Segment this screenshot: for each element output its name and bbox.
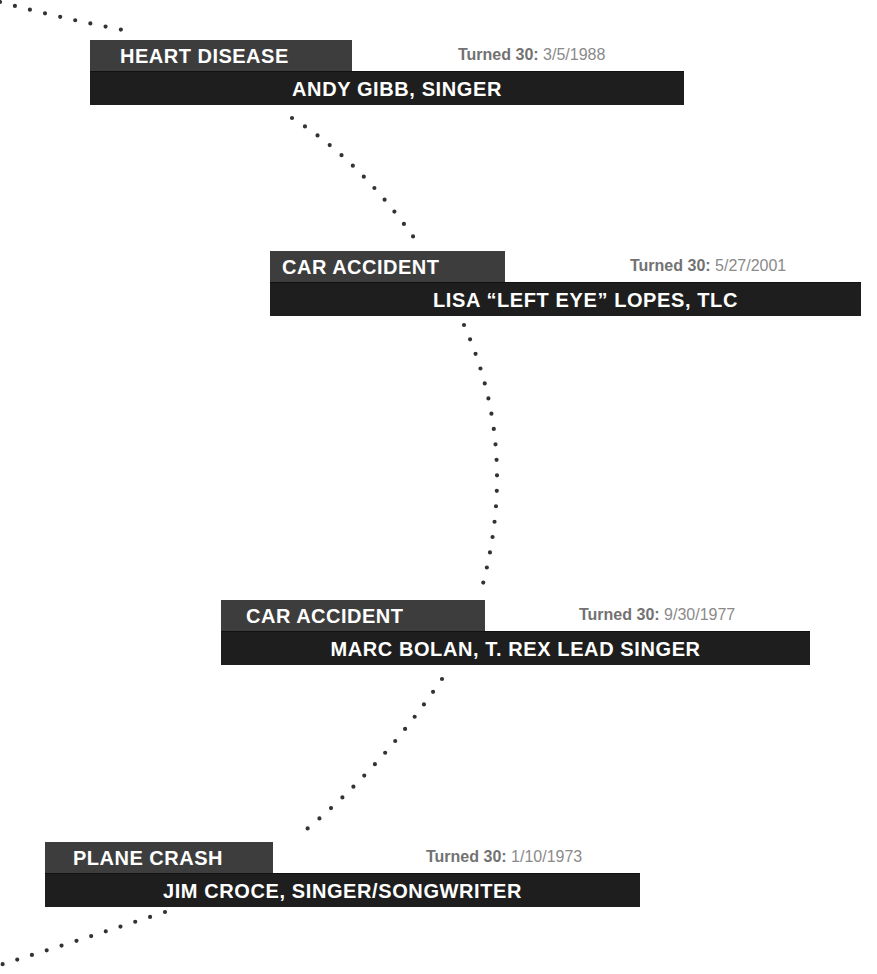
turned-30-date: Turned 30: 1/10/1973 xyxy=(426,846,582,868)
cause-tab: CAR ACCIDENT xyxy=(270,251,505,282)
turned-30-date: Turned 30: 5/27/2001 xyxy=(630,255,786,277)
name-bar: ANDY GIBB, SINGER xyxy=(90,71,684,105)
cause-tab: CAR ACCIDENT xyxy=(221,600,485,631)
turned-date: 9/30/1977 xyxy=(664,606,735,623)
turned-30-date: Turned 30: 9/30/1977 xyxy=(579,604,735,626)
name-bar: MARC BOLAN, T. REX LEAD SINGER xyxy=(221,631,810,665)
entry-marc-bolan: CAR ACCIDENT MARC BOLAN, T. REX LEAD SIN… xyxy=(221,600,810,666)
turned-label: Turned 30: xyxy=(579,606,660,623)
turned-date: 5/27/2001 xyxy=(715,257,786,274)
turned-date: 1/10/1973 xyxy=(511,848,582,865)
name-bar: JIM CROCE, SINGER/SONGWRITER xyxy=(45,873,640,907)
turned-label: Turned 30: xyxy=(630,257,711,274)
entry-andy-gibb: HEART DISEASE ANDY GIBB, SINGER Turned 3… xyxy=(90,40,684,106)
entry-lisa-lopes: CAR ACCIDENT LISA “LEFT EYE” LOPES, TLC … xyxy=(270,251,861,317)
turned-label: Turned 30: xyxy=(458,46,539,63)
turned-label: Turned 30: xyxy=(426,848,507,865)
entry-jim-croce: PLANE CRASH JIM CROCE, SINGER/SONGWRITER… xyxy=(45,842,640,908)
cause-tab: PLANE CRASH xyxy=(45,842,273,873)
name-bar: LISA “LEFT EYE” LOPES, TLC xyxy=(270,282,861,316)
dotted-timeline-path xyxy=(0,0,877,974)
turned-30-date: Turned 30: 3/5/1988 xyxy=(458,44,605,66)
cause-tab: HEART DISEASE xyxy=(90,40,352,71)
turned-date: 3/5/1988 xyxy=(543,46,605,63)
